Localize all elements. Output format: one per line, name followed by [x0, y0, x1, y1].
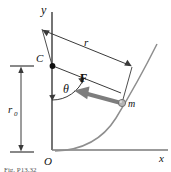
radius-label: r [84, 36, 89, 48]
origin-label: O [44, 155, 52, 167]
r0-label-group: r 0 [8, 103, 18, 118]
mass-label: m [128, 98, 135, 109]
x-axis-label: x [158, 152, 164, 164]
point-c-label: C [36, 52, 44, 64]
r0-arrowhead-up [18, 67, 23, 74]
force-vector-group [74, 86, 121, 103]
theta-label: θ [63, 82, 69, 96]
r0-label-subscript: 0 [14, 110, 18, 118]
r0-label: r [8, 103, 13, 115]
y-axis-label: y [40, 3, 47, 17]
force-vector-shaft [84, 93, 121, 103]
force-label: F [80, 71, 87, 85]
physics-diagram: y x O C m F r θ r 0 [0, 0, 171, 172]
r-arrowhead-right [124, 60, 132, 66]
point-c-marker [50, 63, 56, 69]
figure-caption: Fig. P13.32 [4, 166, 36, 172]
force-vector-arrowhead [74, 86, 90, 99]
mass-particle-highlight [120, 101, 122, 103]
figure-container: y x O C m F r θ r 0 Fig. P13.32 [0, 0, 171, 172]
r0-arrowhead-down [18, 145, 23, 152]
mass-particle-marker [118, 99, 125, 106]
r0-dimension-group [10, 66, 34, 152]
axes-group [52, 12, 168, 150]
